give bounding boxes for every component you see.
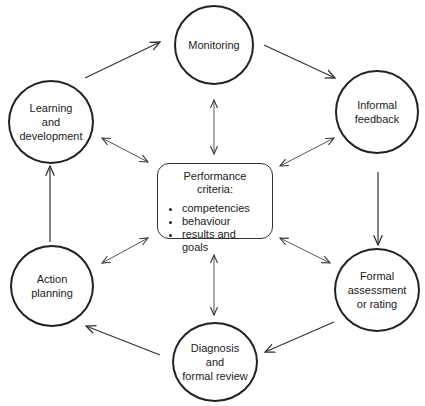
performance-criteria-box: Performance criteria: competencies behav… [157, 163, 273, 239]
node-label: Diagnosis and formal review [182, 341, 247, 383]
arrow-center-action [102, 238, 148, 263]
node-label: Formal assessment or rating [348, 269, 407, 311]
node-label: Monitoring [188, 38, 239, 52]
node-label: Learning and development [20, 101, 83, 143]
node-formal-assessment: Formal assessment or rating [334, 248, 420, 332]
node-action-planning: Action planning [10, 245, 94, 327]
node-informal-feedback: Informal feedback [335, 70, 419, 154]
arrow-formal-to-diagnosis [265, 322, 334, 352]
node-monitoring: Monitoring [174, 5, 254, 85]
arrow-learning-to-monitoring [85, 42, 160, 78]
node-learning-development: Learning and development [8, 80, 94, 164]
arrow-center-learning [102, 138, 148, 162]
criteria-title: Performance criteria: [166, 170, 264, 196]
criteria-item: competencies [182, 202, 264, 215]
arrow-diagnosis-to-action [86, 326, 160, 355]
arrow-monitoring-to-informal [264, 45, 335, 78]
node-label: Action planning [31, 272, 73, 300]
node-label: Informal feedback [355, 98, 400, 126]
arrow-center-informal [280, 138, 334, 166]
criteria-item: results and goals [182, 228, 264, 254]
criteria-item: behaviour [182, 215, 264, 228]
arrow-center-formal [280, 238, 330, 263]
node-diagnosis: Diagnosis and formal review [172, 322, 258, 402]
criteria-list: competencies behaviour results and goals [166, 202, 264, 254]
